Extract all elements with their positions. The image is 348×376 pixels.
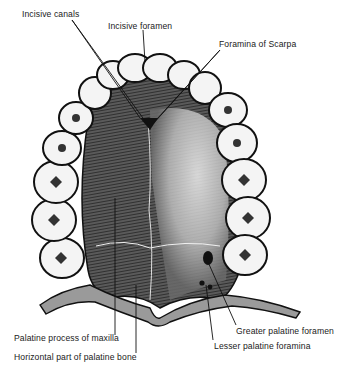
label-foramina-of-scarpa: Foramina of Scarpa [219, 39, 296, 49]
label-lesser-palatine-foramina: Lesser palatine foramina [214, 341, 311, 351]
label-incisive-foramen: Incisive foramen [108, 21, 172, 31]
palate-illustration: Incisive canals Incisive foramen Foramin… [0, 0, 348, 376]
label-incisive-canals: Incisive canals [22, 9, 79, 19]
label-greater-palatine-foramen: Greater palatine foramen [236, 326, 334, 336]
label-horizontal-part-of-palatine-bone: Horizontal part of palatine bone [14, 352, 137, 362]
label-palatine-process-of-maxilla: Palatine process of maxilla [14, 333, 119, 343]
palate-drawing [0, 0, 348, 376]
